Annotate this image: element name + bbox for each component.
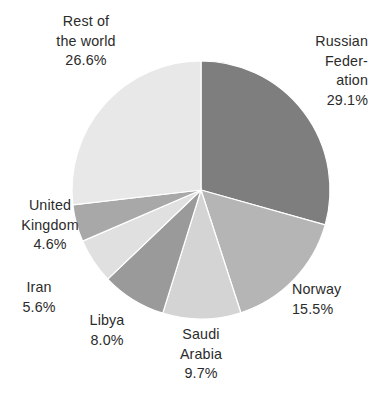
pie-label-russian-federation: Russian Feder- ation 29.1%	[288, 32, 368, 110]
pie-label-iran: Iran 5.6%	[8, 278, 70, 317]
pie-chart-figure: Rest of the world 26.6% Russian Feder- a…	[0, 0, 376, 396]
pie-label-saudi-arabia: Saudi Arabia 9.7%	[164, 325, 238, 384]
pie-slice-rest-of-the-world	[72, 61, 201, 205]
pie-label-libya: Libya 8.0%	[76, 311, 138, 350]
pie-label-united-kingdom: United Kingdom 4.6%	[4, 196, 96, 255]
pie-label-rest-of-world: Rest of the world 26.6%	[22, 12, 150, 71]
pie-label-norway: Norway 15.5%	[292, 280, 372, 319]
